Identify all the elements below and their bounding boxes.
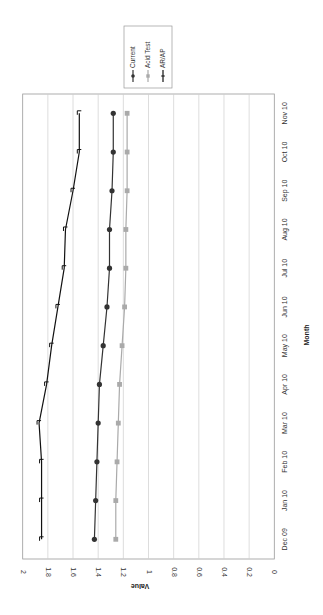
x-tick-label: Nov 10 [281, 102, 288, 124]
data-point-circle [104, 304, 109, 309]
x-axis-title: Month [303, 325, 310, 346]
data-point-circle [101, 343, 106, 348]
data-point-square [113, 537, 118, 542]
data-point-circle [92, 537, 97, 542]
data-point-circle [97, 382, 102, 387]
legend-label: AR/AP [159, 48, 166, 68]
y-tick-label: 0.6 [196, 567, 203, 577]
data-point-square [125, 188, 130, 193]
x-tick-label: Feb 10 [281, 451, 288, 473]
x-tick-label: Mar 10 [281, 412, 288, 434]
legend: CurrentAcid TestAR/AP [124, 26, 172, 88]
x-tick-label: Aug 10 [281, 218, 289, 240]
data-point-circle [111, 111, 116, 116]
y-tick-label: 0.8 [171, 567, 178, 577]
x-tick-label: Dec 09 [281, 528, 288, 550]
data-point-circle [93, 498, 98, 503]
y-tick-label: 2 [20, 570, 27, 574]
data-point-square [113, 498, 118, 503]
data-point-circle [94, 459, 99, 464]
legend-label: Acid Test [144, 42, 151, 68]
data-point-square [125, 150, 130, 155]
y-tick-label: 1 [146, 570, 153, 574]
data-point-circle [96, 421, 101, 426]
data-point-square [122, 305, 127, 310]
legend-label: Current [129, 46, 136, 68]
y-tick-label: 1.2 [120, 567, 127, 577]
y-tick-label: 0 [271, 570, 278, 574]
x-tick-label: Sep 10 [281, 180, 289, 202]
y-tick-label: 1.8 [45, 567, 52, 577]
data-point-square [117, 382, 122, 387]
data-point-circle [109, 188, 114, 193]
x-tick-label: Jul 10 [281, 259, 288, 278]
data-point-square [120, 343, 125, 348]
data-point-square [115, 459, 120, 464]
x-axis-month: Dec 09Jan 10Feb 10Mar 10Apr 10May 10Jun … [281, 102, 310, 550]
data-point-circle [107, 266, 112, 271]
y-tick-label: 1.4 [95, 567, 102, 577]
data-point-circle [111, 149, 116, 154]
data-point-circle [107, 227, 112, 232]
y-axis-title: Value [131, 583, 149, 590]
data-point-square [123, 266, 128, 271]
x-tick-label: Apr 10 [281, 374, 289, 395]
data-point-square [123, 227, 128, 232]
y-axis-value: 00.20.40.60.811.21.41.61.82Value [20, 567, 279, 590]
x-tick-label: Jun 10 [281, 296, 288, 317]
data-point-square [116, 421, 121, 426]
x-tick-label: May 10 [281, 334, 289, 357]
x-tick-label: Oct 10 [281, 142, 288, 163]
y-tick-label: 1.6 [70, 567, 77, 577]
y-tick-label: 0.2 [246, 567, 253, 577]
data-point-square [125, 111, 130, 116]
x-tick-label: Jan 10 [281, 490, 288, 511]
y-tick-label: 0.4 [221, 567, 228, 577]
chart-canvas: Dec 09Jan 10Feb 10Mar 10Apr 10May 10Jun … [0, 0, 323, 615]
line-chart: Dec 09Jan 10Feb 10Mar 10Apr 10May 10Jun … [0, 0, 323, 615]
